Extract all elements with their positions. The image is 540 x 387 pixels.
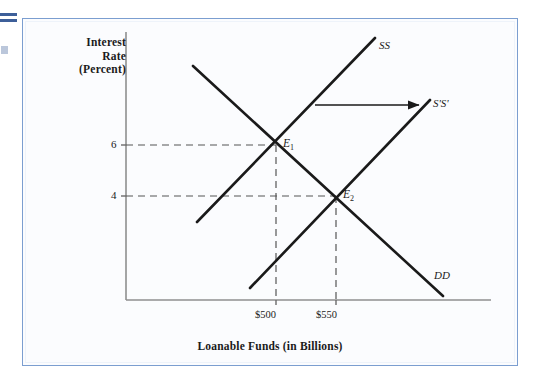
y-axis-title-line-1: Interest [79, 36, 126, 50]
curve-label-ss: SS [379, 39, 390, 52]
curve-label-dd: DD [434, 269, 450, 282]
y-axis-title-line-3: (Percent) [79, 63, 126, 77]
equilibrium-label-e1: E1 [283, 137, 294, 153]
y-axis-title-line-2: Rate [79, 50, 126, 64]
curve-dd [193, 66, 443, 296]
equilibrium-label-e2: E2 [343, 188, 354, 204]
x-tick-label-500: $500 [255, 309, 276, 321]
equilibrium-label-e1-subscript: 1 [290, 143, 294, 152]
x-axis-title: Loanable Funds (in Billions) [0, 340, 540, 354]
y-tick-label-6: 6 [111, 138, 117, 151]
figure-page: Interest Rate (Percent) Loanable Funds (… [0, 0, 540, 387]
curve-label-ss-prime: S'S' [433, 97, 449, 110]
y-tick-label-4: 4 [111, 189, 117, 202]
equilibrium-label-e1-letter: E [283, 137, 290, 149]
x-tick-label-550: $550 [316, 309, 337, 321]
equilibrium-label-e2-letter: E [343, 188, 350, 200]
y-axis-title: Interest Rate (Percent) [79, 36, 126, 77]
equilibrium-label-e2-subscript: 2 [350, 194, 354, 203]
